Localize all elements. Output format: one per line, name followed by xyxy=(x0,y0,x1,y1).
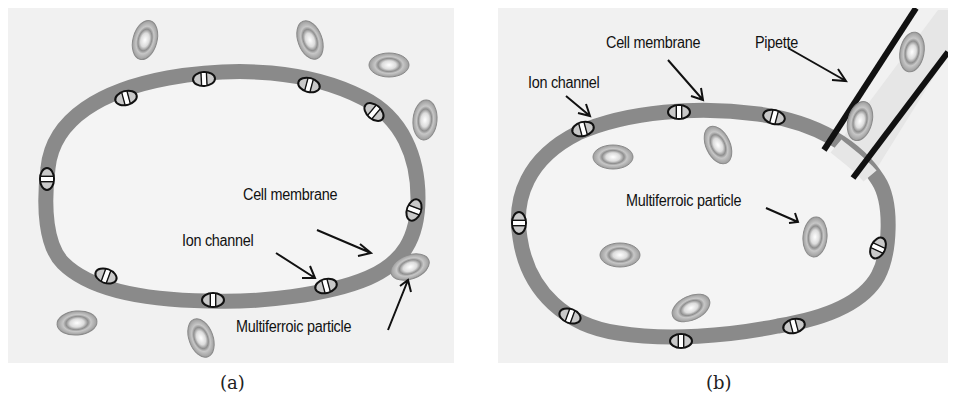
arrow-pipette xyxy=(788,48,846,81)
cell-membrane xyxy=(46,72,418,302)
ion-channel-icon xyxy=(202,293,224,307)
ion-channel-icon xyxy=(40,168,54,190)
multiferroic-particle-icon xyxy=(292,17,328,63)
multiferroic-particle-icon xyxy=(183,315,219,361)
label-ion-channel: Ion channel xyxy=(182,232,253,250)
label-pipette: Pipette xyxy=(755,34,798,52)
label-cell-membrane: Cell membrane xyxy=(243,186,337,204)
label-cell-membrane: Cell membrane xyxy=(606,34,700,52)
caption-b: (b) xyxy=(706,372,732,393)
caption-a: (a) xyxy=(220,372,245,393)
panel-b-diagram xyxy=(498,8,948,363)
panel-a-diagram xyxy=(8,8,454,363)
ion-channel-icon xyxy=(670,334,692,348)
arrow-particle xyxy=(388,280,411,330)
label-multiferroic-particle: Multiferroic particle xyxy=(626,192,741,210)
multiferroic-particle-icon xyxy=(369,53,409,77)
ion-channel-icon xyxy=(512,212,526,234)
multiferroic-particle-icon xyxy=(600,243,640,267)
label-multiferroic-particle: Multiferroic particle xyxy=(236,318,351,336)
panel-a: Cell membrane Ion channel Multiferroic p… xyxy=(8,8,454,363)
panel-b: Ion channel Cell membrane Pipette Multif… xyxy=(498,8,948,363)
arrow-cell-membrane xyxy=(668,60,703,100)
ion-channel-icon xyxy=(193,71,216,86)
multiferroic-particle-icon xyxy=(411,99,438,141)
label-ion-channel: Ion channel xyxy=(528,74,599,92)
multiferroic-particle-icon xyxy=(593,145,633,169)
arrow-ion-channel xyxy=(566,96,590,116)
ion-channel-icon xyxy=(668,105,690,119)
multiferroic-particle-icon xyxy=(56,309,98,336)
multiferroic-particle-icon xyxy=(128,18,162,63)
